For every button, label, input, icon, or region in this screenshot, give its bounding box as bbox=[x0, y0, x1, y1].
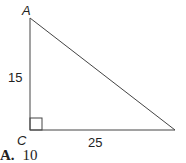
side-label-ac: 15 bbox=[8, 71, 22, 84]
vertex-label-a: A bbox=[22, 4, 31, 17]
answer-letter: A. bbox=[0, 147, 15, 163]
right-angle-marker bbox=[30, 118, 42, 130]
triangle-outline bbox=[30, 18, 175, 130]
vertex-label-c: C bbox=[17, 134, 26, 147]
answer-choice: A.10 bbox=[0, 148, 38, 163]
side-label-cb: 25 bbox=[88, 136, 102, 149]
answer-value: 10 bbox=[23, 147, 38, 163]
